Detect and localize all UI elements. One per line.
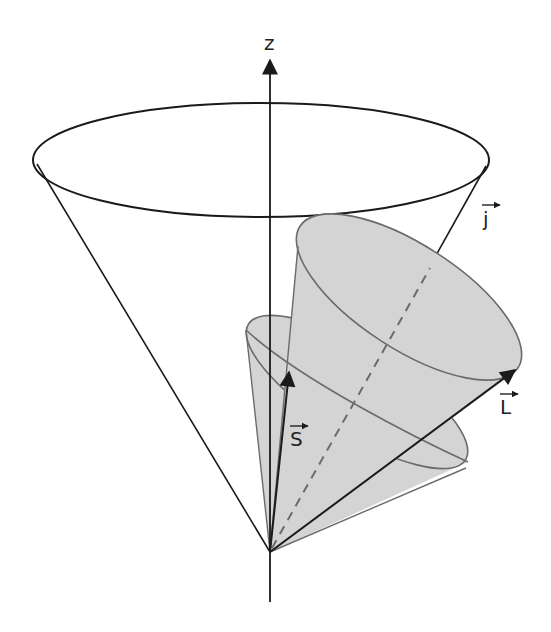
z-axis-label: z xyxy=(264,31,275,55)
j-vector-label: j xyxy=(482,205,500,231)
l-vector-label: L xyxy=(500,394,518,419)
l-label-text: L xyxy=(500,395,512,419)
l-precession-cone xyxy=(270,183,546,552)
s-label-text: S xyxy=(290,427,303,451)
coupling-diagram: z j L S xyxy=(0,0,551,632)
j-cone-rim xyxy=(33,103,489,217)
j-cone-left-edge xyxy=(37,164,270,552)
j-label-text: j xyxy=(482,207,489,231)
